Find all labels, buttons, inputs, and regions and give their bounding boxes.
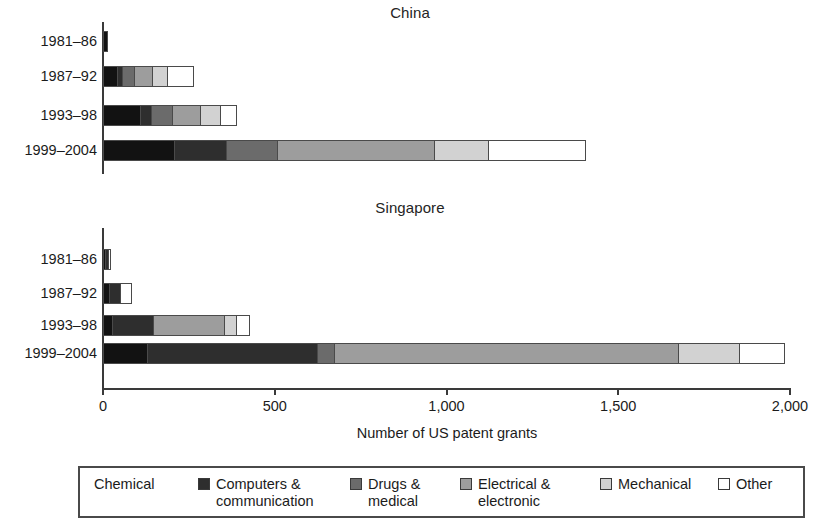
legend-swatch-icon xyxy=(718,478,730,490)
bar-segment-computers xyxy=(174,140,227,161)
legend-items: ChemicalComputers & communicationDrugs &… xyxy=(80,468,803,516)
panel-title-china: China xyxy=(0,4,820,21)
legend-label: Electrical & electronic xyxy=(478,476,551,510)
legend-label: Drugs & medical xyxy=(368,476,420,510)
bar-segment-electrical xyxy=(153,315,225,336)
panel-china: China 1981–861987–921993–981999–2004 xyxy=(0,0,820,190)
panel-title-singapore: Singapore xyxy=(0,199,820,216)
legend-item-electrical[interactable]: Electrical & electronic xyxy=(460,476,600,510)
legend-item-computers[interactable]: Computers & communication xyxy=(198,476,350,510)
bar-segment-chemical xyxy=(103,343,148,364)
x-axis-tick xyxy=(274,388,276,395)
legend-item-other[interactable]: Other xyxy=(718,476,800,493)
legend-item-mechanical[interactable]: Mechanical xyxy=(600,476,718,493)
category-label: 1993–98 xyxy=(5,317,97,333)
legend-label: Chemical xyxy=(94,476,154,493)
bar-segment-mechanical xyxy=(224,315,238,336)
category-label: 1981–86 xyxy=(5,251,97,267)
x-axis-tick xyxy=(789,388,791,395)
x-axis-tick-label: 500 xyxy=(240,398,310,414)
stacked-bar xyxy=(103,315,254,336)
bar-segment-other xyxy=(108,249,111,270)
bar-segment-mechanical xyxy=(200,105,221,126)
legend-label: Computers & communication xyxy=(216,476,314,510)
bar-segment-other xyxy=(120,283,132,304)
category-label: 1987–92 xyxy=(5,285,97,301)
x-axis-tick-label: 1,000 xyxy=(412,398,482,414)
bar-segment-drugs xyxy=(151,105,173,126)
stacked-bar xyxy=(103,66,199,87)
bar-segment-chemical xyxy=(103,140,175,161)
bar-segment-chemical xyxy=(103,31,108,52)
stacked-bar xyxy=(103,140,591,161)
legend-swatch-icon xyxy=(198,478,210,490)
stacked-bar xyxy=(103,249,113,270)
x-axis-tick-label: 0 xyxy=(68,398,138,414)
bar-segment-mechanical xyxy=(152,66,167,87)
category-label: 1981–86 xyxy=(5,33,97,49)
bar-segment-other xyxy=(220,105,237,126)
x-axis-tick-label: 2,000 xyxy=(755,398,820,414)
stacked-bar xyxy=(103,343,790,364)
legend-item-drugs[interactable]: Drugs & medical xyxy=(350,476,460,510)
x-axis-tick-label: 1,500 xyxy=(583,398,653,414)
bar-segment-mechanical xyxy=(434,140,489,161)
bar-segment-computers xyxy=(112,315,153,336)
bar-segment-computers xyxy=(147,343,319,364)
legend-swatch-icon xyxy=(600,478,612,490)
bar-segment-drugs xyxy=(226,140,278,161)
bar-segment-drugs xyxy=(317,343,334,364)
stacked-bar xyxy=(103,283,134,304)
category-label: 1993–98 xyxy=(5,107,97,123)
x-axis-title: Number of US patent grants xyxy=(103,425,791,441)
legend-swatch-icon xyxy=(460,478,472,490)
bar-segment-drugs xyxy=(122,66,136,87)
stacked-bar xyxy=(103,31,108,52)
category-label: 1999–2004 xyxy=(5,142,97,158)
bar-segment-chemical xyxy=(103,105,141,126)
category-label: 1987–92 xyxy=(5,68,97,84)
x-axis-tick xyxy=(102,388,104,395)
x-axis-tick xyxy=(446,388,448,395)
legend: ChemicalComputers & communicationDrugs &… xyxy=(78,466,805,518)
bar-segment-electrical xyxy=(277,140,435,161)
bar-segment-electrical xyxy=(172,105,201,126)
bar-segment-electrical xyxy=(134,66,153,87)
legend-label: Other xyxy=(736,476,772,493)
legend-item-chemical[interactable]: Chemical xyxy=(86,476,198,493)
panel-singapore: Singapore 1981–861987–921993–981999–2004 xyxy=(0,195,820,380)
bar-segment-other xyxy=(739,343,785,364)
x-axis-tick xyxy=(617,388,619,395)
bar-segment-chemical xyxy=(103,66,118,87)
patent-grants-figure: China 1981–861987–921993–981999–2004 Sin… xyxy=(0,0,820,524)
category-label: 1999–2004 xyxy=(5,345,97,361)
bar-segment-mechanical xyxy=(678,343,740,364)
bar-segment-other xyxy=(167,66,194,87)
bar-segment-other xyxy=(488,140,586,161)
bar-segment-electrical xyxy=(334,343,679,364)
stacked-bar xyxy=(103,105,242,126)
bar-segment-other xyxy=(236,315,250,336)
legend-swatch-icon xyxy=(350,478,362,490)
legend-label: Mechanical xyxy=(618,476,691,493)
